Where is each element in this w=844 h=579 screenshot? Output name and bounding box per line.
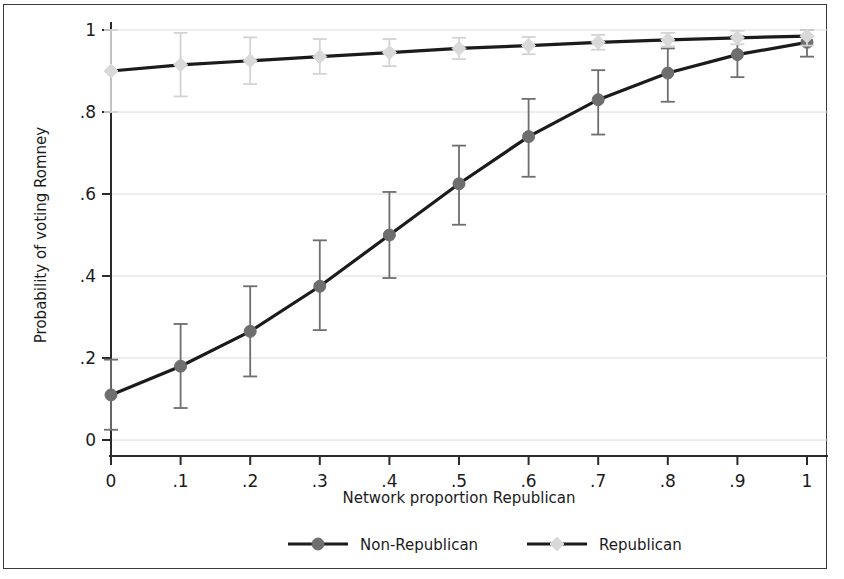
data-point-marker xyxy=(175,360,187,372)
data-point-marker xyxy=(174,58,188,72)
data-point-marker xyxy=(453,178,465,190)
legend-item-republican[interactable]: Republican xyxy=(527,536,682,554)
data-point-marker xyxy=(313,50,327,64)
data-point-marker xyxy=(383,229,395,241)
x-axis-tick-label: .5 xyxy=(451,471,467,491)
x-axis-tick-labels: 0.1.2.3.4.5.6.7.8.91 xyxy=(106,471,813,491)
x-axis-tick-label: .3 xyxy=(312,471,328,491)
y-axis-tick-labels: 0.2.4.6.81 xyxy=(80,20,96,450)
chart-legend: Non-RepublicanRepublican xyxy=(288,536,682,554)
data-point-marker xyxy=(314,280,326,292)
x-axis-title: Network proportion Republican xyxy=(342,489,575,507)
series-non-republican xyxy=(104,30,814,430)
y-axis-tick-label: .4 xyxy=(80,266,96,286)
y-axis-title: Probability of voting Romney xyxy=(32,127,50,343)
x-axis-tick-label: .9 xyxy=(729,471,745,491)
x-axis-tick-label: .6 xyxy=(520,471,536,491)
x-axis-tick-label: 0 xyxy=(106,471,117,491)
y-axis-tick-label: .6 xyxy=(80,184,96,204)
data-point-marker xyxy=(104,64,118,78)
data-point-marker xyxy=(382,46,396,60)
legend-marker xyxy=(550,537,564,551)
chart-plot-area: 0.2.4.6.81 0.1.2.3.4.5.6.7.8.91 Probabil… xyxy=(0,0,844,579)
data-point-marker xyxy=(523,131,535,143)
x-axis-tick-label: 1 xyxy=(802,471,813,491)
y-axis-tick-label: .2 xyxy=(80,348,96,368)
series-republican xyxy=(104,29,814,112)
series-layer xyxy=(104,29,814,430)
x-axis-tick-label: .7 xyxy=(590,471,606,491)
y-axis-tick-label: .8 xyxy=(80,102,96,122)
legend-item-non-republican[interactable]: Non-Republican xyxy=(288,536,478,554)
axes xyxy=(102,22,828,465)
data-point-marker xyxy=(452,41,466,55)
x-axis-tick-label: .1 xyxy=(172,471,188,491)
y-axis-tick-label: 1 xyxy=(85,20,96,40)
legend-label: Republican xyxy=(599,536,682,554)
data-point-marker xyxy=(105,389,117,401)
data-point-marker xyxy=(730,31,744,45)
x-axis-tick-label: .2 xyxy=(242,471,258,491)
data-point-marker xyxy=(662,67,674,79)
gridlines xyxy=(111,30,828,440)
x-axis-tick-label: .4 xyxy=(381,471,397,491)
y-axis-tick-label: 0 xyxy=(85,430,96,450)
data-point-marker xyxy=(592,94,604,106)
figure-container: 0.2.4.6.81 0.1.2.3.4.5.6.7.8.91 Probabil… xyxy=(0,0,844,579)
legend-label: Non-Republican xyxy=(360,536,478,554)
data-point-marker xyxy=(522,39,536,53)
data-point-marker xyxy=(661,33,675,47)
legend-marker xyxy=(312,538,324,550)
x-axis-tick-label: .8 xyxy=(660,471,676,491)
data-point-marker xyxy=(731,49,743,61)
data-point-marker xyxy=(243,54,257,68)
data-point-marker xyxy=(244,325,256,337)
data-point-marker xyxy=(591,35,605,49)
